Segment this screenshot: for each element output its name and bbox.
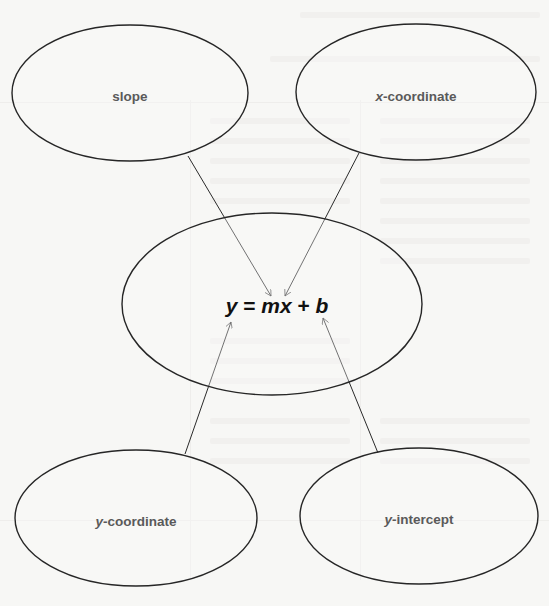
- node-y-intercept-label: y-intercept: [383, 512, 454, 527]
- node-slope: slope: [12, 25, 248, 161]
- equation-b: b: [316, 294, 329, 317]
- equation-mx: mx: [261, 294, 293, 317]
- node-y-intercept: y-intercept: [300, 448, 538, 584]
- equation-text: y = mx + b: [225, 294, 329, 317]
- concept-map: slope x-coordinate y = mx + b y-coordina…: [0, 0, 549, 606]
- node-x-coordinate-label: x-coordinate: [374, 89, 457, 104]
- equation-plus: +: [292, 294, 316, 317]
- node-y-coordinate-label: y-coordinate: [94, 514, 177, 529]
- node-equation: y = mx + b: [122, 213, 422, 395]
- equation-equals: =: [237, 294, 261, 317]
- node-y-coordinate: y-coordinate: [15, 450, 257, 586]
- node-slope-label: slope: [112, 89, 148, 104]
- node-x-coordinate: x-coordinate: [296, 24, 536, 160]
